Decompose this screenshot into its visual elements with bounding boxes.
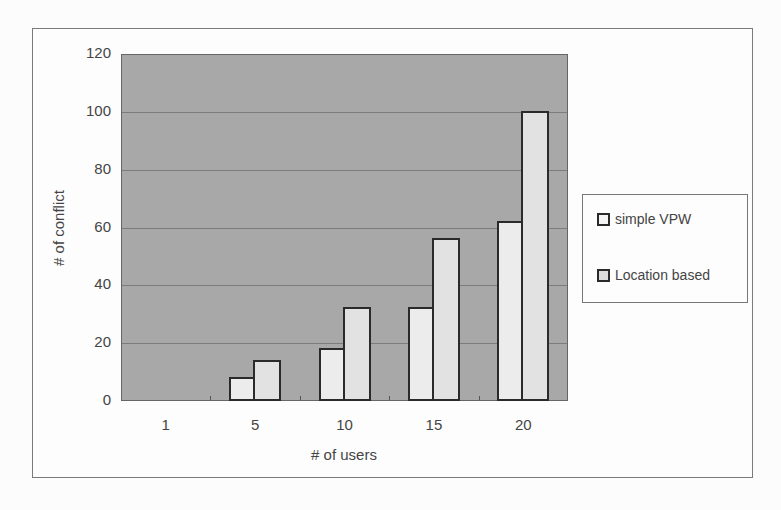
x-tick-label: 20 — [503, 416, 543, 433]
x-tick-label: 10 — [325, 416, 365, 433]
bar-location-based-15 — [432, 238, 460, 401]
legend-swatch-icon — [597, 269, 610, 282]
x-tick-label: 15 — [414, 416, 454, 433]
legend-swatch-icon — [597, 213, 610, 226]
x-tick-mark — [210, 396, 211, 400]
legend-item-simple-vpw: simple VPW — [597, 211, 691, 227]
y-tick-label: 60 — [71, 219, 111, 235]
legend-item-location-based: Location based — [597, 267, 710, 283]
y-tick-label: 120 — [71, 45, 111, 61]
x-tick-label: 5 — [235, 416, 275, 433]
x-tick-label: 1 — [146, 416, 186, 433]
y-tick-label: 0 — [71, 392, 111, 408]
legend-label: simple VPW — [615, 211, 691, 227]
x-tick-mark — [389, 396, 390, 400]
x-tick-mark — [479, 396, 480, 400]
y-tick-label: 80 — [71, 161, 111, 177]
y-tick-label: 40 — [71, 276, 111, 292]
y-axis-label: # of conflict — [50, 190, 67, 266]
bar-location-based-5 — [253, 360, 281, 401]
gridline — [122, 170, 567, 171]
legend: simple VPW Location based — [582, 194, 748, 303]
bar-location-based-20 — [521, 111, 549, 401]
plot-area — [121, 54, 568, 401]
y-tick-label: 20 — [71, 334, 111, 350]
x-tick-mark — [300, 396, 301, 400]
bar-location-based-10 — [343, 307, 371, 401]
gridline — [122, 112, 567, 113]
y-tick-label: 100 — [71, 103, 111, 119]
legend-label: Location based — [615, 267, 710, 283]
x-axis-label: # of users — [311, 446, 377, 463]
